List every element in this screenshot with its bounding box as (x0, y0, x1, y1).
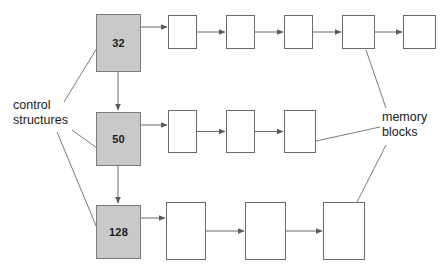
row-128-block-2[interactable] (245, 202, 286, 260)
row-128-block-1[interactable] (166, 202, 206, 260)
connector-group (118, 27, 402, 231)
row-50-block-1[interactable] (168, 110, 197, 153)
annotation-control-structures-line2: structures (13, 113, 68, 128)
control-128[interactable]: 128 (96, 205, 141, 259)
memory-allocator-diagram: 3250128 control structures memory blocks (0, 0, 447, 272)
row-32-block-2[interactable] (226, 15, 255, 49)
annotation-control-structures: control structures (13, 98, 68, 128)
control-50[interactable]: 50 (96, 112, 141, 166)
control-32-label: 32 (97, 37, 140, 49)
leader-line-memory-to-top (366, 50, 386, 108)
annotation-memory-blocks-line1: memory (382, 110, 427, 125)
annotation-control-structures-line1: control (13, 98, 68, 113)
row-32-block-5[interactable] (403, 15, 436, 49)
row-50-block-2[interactable] (226, 110, 255, 153)
leader-line-memory-to-mid (316, 127, 380, 141)
annotation-memory-blocks: memory blocks (382, 110, 427, 140)
row-128-block-3[interactable] (323, 202, 365, 260)
control-50-label: 50 (97, 133, 140, 145)
leader-line-control-to-50 (72, 130, 97, 148)
leader-line-control-to-128 (57, 132, 97, 228)
diagram-connectors-layer (0, 0, 447, 272)
control-32[interactable]: 32 (96, 14, 141, 72)
leader-line-memory-to-bot (356, 145, 386, 204)
row-32-block-3[interactable] (284, 15, 313, 49)
control-128-label: 128 (97, 226, 140, 238)
row-32-block-4[interactable] (342, 15, 375, 49)
row-32-block-1[interactable] (168, 15, 197, 49)
annotation-memory-blocks-line2: blocks (382, 125, 427, 140)
row-50-block-3[interactable] (284, 110, 316, 153)
leader-line-control-to-32 (64, 48, 97, 102)
